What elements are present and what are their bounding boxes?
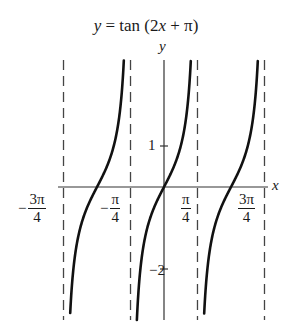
x-tick-label-neg-pi-4: − π4 — [100, 192, 120, 225]
y-tick-label-1: 1 — [148, 137, 156, 154]
x-axis-label: x — [272, 177, 279, 194]
y-tick-label-neg2: −2 — [149, 262, 165, 279]
x-tick-label-3pi-4: 3π4 — [238, 192, 255, 225]
x-tick-label-neg-3pi-4: − 3π4 — [18, 192, 46, 225]
plot-area — [0, 0, 292, 326]
y-axis-label: y — [159, 38, 166, 55]
x-tick-label-pi-4: π4 — [181, 192, 191, 225]
